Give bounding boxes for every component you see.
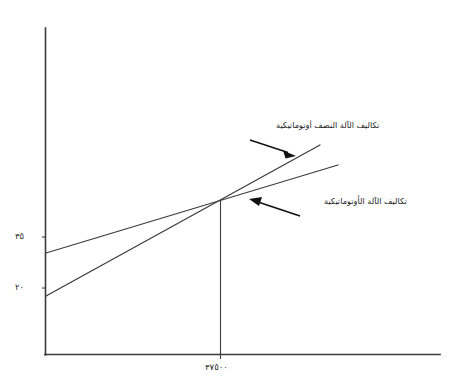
y-axis-tick-label-35: ٣٥: [15, 232, 24, 241]
x-axis-tick-label-breakeven: ٣٧٥٠٠: [205, 363, 228, 372]
semi-automatic-cost-label: تكاليف الآلة النصف أوتوماتيكية: [276, 121, 379, 129]
automatic-pointer-arrow: [249, 197, 300, 216]
y-axis-tick-label-20: ٢٠: [15, 283, 24, 292]
automatic-cost-line: [46, 165, 338, 253]
semi-automatic-pointer-arrow: [250, 140, 296, 159]
chart-plot-area: [0, 0, 461, 388]
automatic-cost-label: تكاليف الآلة الأوتوماتيكية: [324, 197, 407, 205]
semi-automatic-cost-line: [46, 145, 320, 296]
chart-container: تكاليف الآلة النصف أوتوماتيكية تكاليف ال…: [0, 0, 461, 388]
